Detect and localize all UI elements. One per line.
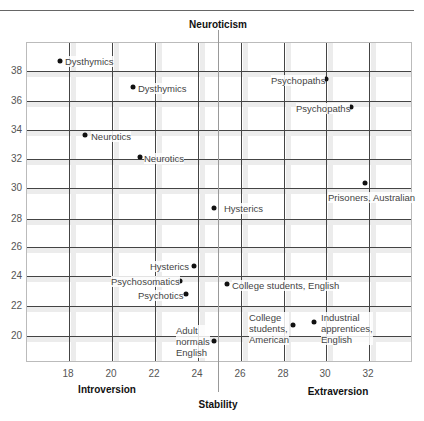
- point-label: Neurotics: [91, 131, 131, 142]
- data-point-adult-normals: [212, 339, 217, 344]
- grid-line-y-38: [27, 71, 411, 72]
- grid-line-y-36: [27, 101, 411, 102]
- point-label: College students, American: [249, 312, 289, 345]
- grid-band: [200, 43, 205, 361]
- y-tick: 24: [2, 270, 22, 281]
- axis-title-extraversion: Extraversion: [308, 386, 369, 397]
- axis-title-stability: Stability: [199, 399, 238, 410]
- grid-line-x-20: [112, 43, 113, 361]
- y-tick: 22: [2, 300, 22, 311]
- y-tick: 32: [2, 153, 22, 164]
- point-label: Psychosomatics: [111, 276, 180, 287]
- y-tick: 20: [2, 330, 22, 341]
- data-point-hysterics: [212, 206, 217, 211]
- grid-line-x-18: [69, 43, 70, 361]
- point-label: Adult normals English: [176, 325, 210, 358]
- x-tick: 22: [148, 368, 159, 379]
- data-point-college-american: [291, 323, 296, 328]
- point-label: Dysthymics: [138, 83, 187, 94]
- point-label: Psychopaths: [271, 75, 325, 86]
- top-rule: [0, 10, 414, 11]
- y-tick: 34: [2, 124, 22, 135]
- y-tick: 26: [2, 241, 22, 252]
- axis-title-introversion: Introversion: [78, 384, 136, 395]
- grid-band: [71, 43, 76, 361]
- x-tick: 30: [319, 368, 330, 379]
- grid-band: [27, 72, 411, 77]
- point-label: Psychotics: [138, 290, 183, 301]
- stability-neuroticism-axis: [218, 30, 219, 392]
- x-tick: 32: [362, 368, 373, 379]
- y-tick: 28: [2, 213, 22, 224]
- data-point-neurotics: [83, 133, 88, 138]
- grid-line-y-24: [27, 276, 411, 277]
- y-tick: 38: [2, 65, 22, 76]
- point-label: College students, English: [232, 280, 339, 291]
- data-point-college-english: [225, 282, 230, 287]
- grid-line-y-32: [27, 159, 411, 160]
- grid-line-x-26: [241, 43, 242, 361]
- grid-line-x-24: [198, 43, 199, 361]
- data-point-industrial-apprentices: [312, 320, 317, 325]
- data-point-prisoners: [363, 181, 368, 186]
- grid-line-y-28: [27, 219, 411, 220]
- x-tick: 28: [277, 368, 288, 379]
- grid-line-y-22: [27, 306, 411, 307]
- data-point-dysthymics: [58, 59, 63, 64]
- y-tick: 36: [2, 95, 22, 106]
- x-tick: 18: [62, 368, 73, 379]
- data-point-psychotics: [184, 292, 189, 297]
- data-point-dysthymics: [131, 85, 136, 90]
- y-tick: 30: [2, 182, 22, 193]
- point-label: Hysterics: [150, 261, 189, 272]
- point-label: Prisoners, Australian: [328, 192, 415, 203]
- axis-title-neuroticism: Neuroticism: [189, 19, 247, 30]
- point-label: Neurotics: [144, 153, 184, 164]
- point-label: Psychopaths: [296, 103, 350, 114]
- grid-band: [27, 220, 411, 225]
- x-tick: 20: [105, 368, 116, 379]
- point-label: Dysthymics: [65, 56, 114, 67]
- grid-line-y-34: [27, 130, 411, 131]
- grid-band: [27, 248, 411, 253]
- data-point-hysterics: [192, 264, 197, 269]
- data-point-neurotics: [138, 155, 143, 160]
- x-tick: 26: [234, 368, 245, 379]
- grid-band: [114, 43, 119, 361]
- x-tick: 24: [191, 368, 202, 379]
- grid-band: [243, 43, 248, 361]
- grid-band: [27, 277, 411, 282]
- grid-line-y-26: [27, 247, 411, 248]
- grid-band: [27, 160, 411, 165]
- point-label: Hysterics: [224, 203, 263, 214]
- grid-line-y-30: [27, 188, 411, 189]
- point-label: Industrial apprentices, English: [321, 312, 373, 345]
